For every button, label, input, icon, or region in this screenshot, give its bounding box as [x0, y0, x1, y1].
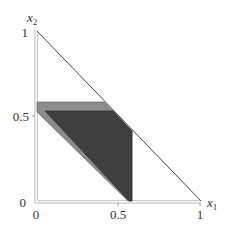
feasible-region-diagram: 0 0.5 1 0 0.5 1 x2 x1 — [0, 0, 226, 231]
y-tick-label-0.5: 0.5 — [13, 109, 29, 124]
dark-region — [45, 111, 132, 201]
diagram-canvas: 0 0.5 1 0 0.5 1 x2 x1 — [0, 0, 226, 231]
y-tick-label-1: 1 — [22, 25, 29, 40]
y-axis-label: x2 — [26, 10, 37, 27]
x-tick-label-1: 1 — [197, 207, 204, 222]
x-tick-label-0: 0 — [33, 207, 40, 222]
y-tick-label-0: 0 — [20, 195, 27, 210]
x-tick-label-0.5: 0.5 — [110, 207, 126, 222]
x-axis-label: x1 — [206, 195, 217, 212]
